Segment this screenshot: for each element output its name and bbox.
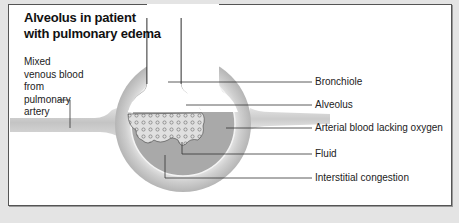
label-interstitial-congestion: Interstitial congestion bbox=[315, 172, 409, 184]
label-bronchiole: Bronchiole bbox=[315, 76, 362, 88]
label-fluid: Fluid bbox=[315, 148, 337, 160]
label-arterial-blood: Arterial blood lacking oxygen bbox=[315, 122, 443, 134]
label-mixed-venous: Mixed venous blood from pulmonary artery bbox=[24, 56, 84, 119]
figure-title: Alveolus in patient with pulmonary edema bbox=[24, 10, 164, 42]
label-alveolus: Alveolus bbox=[315, 99, 353, 111]
